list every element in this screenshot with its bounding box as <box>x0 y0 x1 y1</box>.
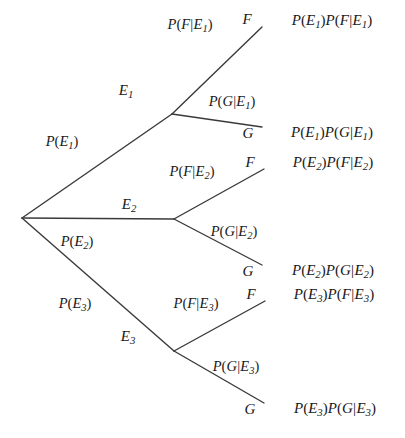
branch-label-p-e2: P(E2) <box>61 234 94 251</box>
branch-label-p-g-given-e2: P(G|E2) <box>211 224 258 241</box>
node-label-e2: E2 <box>122 197 137 214</box>
leaf-label-g1: G <box>243 126 254 141</box>
outcome-expression-1: P(E1)P(F|E1) <box>292 13 372 30</box>
leaf-label-f2: F <box>245 155 254 170</box>
edge-root-e2 <box>22 218 174 219</box>
leaf-label-f1: F <box>242 12 251 27</box>
branch-label-p-e3: P(E3) <box>59 296 92 313</box>
outcome-expression-2: P(E1)P(G|E1) <box>291 125 373 142</box>
outcome-expression-6: P(E3)P(G|E3) <box>294 401 376 418</box>
probability-tree-diagram: P(E1) P(E2) P(E3) E1 E2 E3 P(F|E1) P(G|E… <box>0 0 405 438</box>
leaf-label-g3: G <box>245 402 256 417</box>
leaf-label-g2: G <box>243 264 254 279</box>
outcome-expression-4: P(E2)P(G|E2) <box>292 263 374 280</box>
outcome-expression-5: P(E3)P(F|E3) <box>294 287 374 304</box>
branch-label-p-e1: P(E1) <box>46 134 79 151</box>
branch-label-p-f-given-e2: P(F|E2) <box>170 164 215 181</box>
node-label-e3: E3 <box>121 329 136 346</box>
leaf-label-f3: F <box>246 287 255 302</box>
outcome-expression-3: P(E2)P(F|E2) <box>293 155 373 172</box>
branch-label-p-g-given-e3: P(G|E3) <box>213 359 260 376</box>
branch-label-p-g-given-e1: P(G|E1) <box>209 94 256 111</box>
edge-root-e1 <box>22 114 172 218</box>
branch-label-p-f-given-e3: P(F|E3) <box>174 296 219 313</box>
edge-root-e3 <box>22 218 174 351</box>
tree-edge-layer <box>0 0 405 438</box>
node-label-e1: E1 <box>119 83 134 100</box>
branch-label-p-f-given-e1: P(F|E1) <box>168 17 213 34</box>
